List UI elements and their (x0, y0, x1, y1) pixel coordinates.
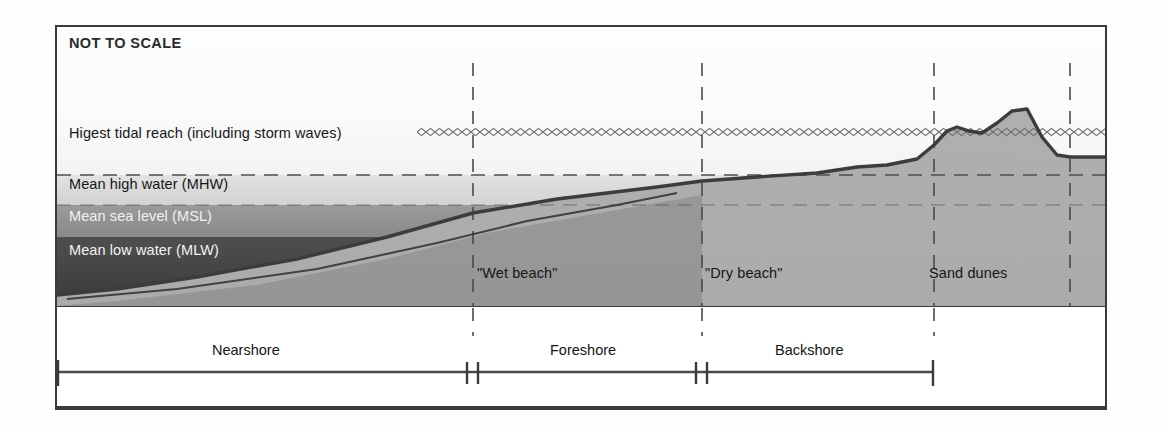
diagram-frame: NOT TO SCALE Higest tidal reach (includi… (55, 25, 1107, 410)
dry-beach-label: "Dry beach" (705, 265, 782, 281)
coastal-profile-diagram: NOT TO SCALE Higest tidal reach (includi… (0, 0, 1163, 429)
zone-dividers-lower (473, 308, 934, 336)
mean-sea-level-label: Mean sea level (MSL) (69, 208, 212, 224)
highest-tidal-reach-chain (417, 128, 1105, 138)
sand-dunes-label: Sand dunes (929, 265, 1007, 281)
not-to-scale-label: NOT TO SCALE (69, 35, 181, 51)
zone-label-nearshore: Nearshore (212, 342, 280, 358)
wet-beach-label: "Wet beach" (477, 265, 557, 281)
mean-high-water-label: Mean high water (MHW) (69, 176, 228, 192)
shore-zones-panel: Nearshore Foreshore Backshore (57, 306, 1105, 408)
highest-tidal-reach-label: Higest tidal reach (including storm wave… (69, 125, 342, 141)
diagram-panel: NOT TO SCALE Higest tidal reach (includi… (57, 27, 1105, 306)
zone-label-foreshore: Foreshore (550, 342, 616, 358)
mean-low-water-label: Mean low water (MLW) (69, 242, 219, 258)
zone-label-backshore: Backshore (775, 342, 844, 358)
